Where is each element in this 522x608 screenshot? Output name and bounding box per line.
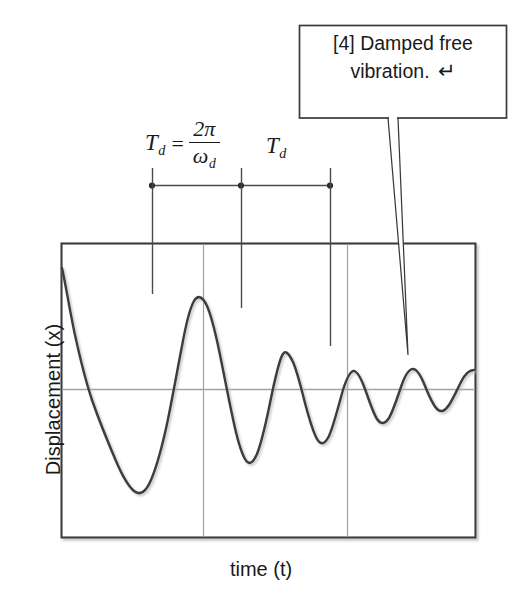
figure-canvas	[0, 0, 522, 608]
damped-period-formula: Td = 2π ωd	[145, 117, 220, 172]
callout-line-2-wrap: vibration.↵	[303, 57, 503, 85]
callout-line-1: [4] Damped free	[303, 31, 503, 57]
period-label-2-subscript: d	[279, 145, 286, 162]
plot-frame	[62, 244, 476, 538]
formula-T-symbol: Td	[145, 130, 165, 159]
formula-numerator: 2π	[189, 117, 219, 142]
formula-T-subscript: d	[158, 142, 165, 159]
y-axis-label: Displacement (x)	[42, 285, 65, 515]
callout-line-2: vibration.	[350, 60, 429, 82]
x-axis-label: time (t)	[181, 558, 341, 581]
damped-vibration-figure: Displacement (x) time (t) [4] Damped fre…	[0, 0, 522, 608]
formula-denominator: ωd	[189, 143, 220, 171]
enter-key-icon: ↵	[438, 59, 456, 82]
callout-label: [4] Damped free vibration.↵	[303, 31, 503, 84]
formula-fraction: 2π ωd	[189, 117, 220, 172]
damped-period-label-2: Td	[266, 133, 286, 162]
period-label-2-symbol: T	[266, 133, 279, 158]
formula-equals: =	[171, 131, 183, 157]
formula-denominator-subscript: d	[209, 157, 216, 172]
